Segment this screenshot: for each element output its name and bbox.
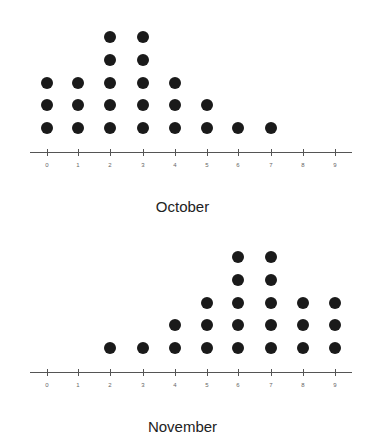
axis-tick — [110, 149, 111, 156]
axis-tick — [143, 149, 144, 156]
data-dot — [169, 122, 181, 134]
data-dot — [265, 342, 277, 354]
data-dot — [265, 319, 277, 331]
data-dot — [137, 99, 149, 111]
axis-tick — [47, 369, 48, 376]
tick-label: 8 — [297, 162, 309, 168]
axis-tick — [271, 149, 272, 156]
tick-label: 8 — [297, 382, 309, 388]
data-dot — [104, 99, 116, 111]
tick-label: 4 — [169, 162, 181, 168]
tick-label: 9 — [329, 382, 341, 388]
tick-label: 7 — [265, 162, 277, 168]
tick-label: 1 — [72, 162, 84, 168]
data-dot — [329, 342, 341, 354]
tick-label: 2 — [104, 382, 116, 388]
tick-label: 3 — [137, 382, 149, 388]
axis-tick — [207, 369, 208, 376]
tick-label: 4 — [169, 382, 181, 388]
data-dot — [297, 297, 309, 309]
axis-tick — [78, 149, 79, 156]
tick-label: 9 — [329, 162, 341, 168]
data-dot — [137, 54, 149, 66]
tick-label: 3 — [137, 162, 149, 168]
data-dot — [104, 31, 116, 43]
data-dot — [232, 297, 244, 309]
tick-label: 0 — [41, 382, 53, 388]
data-dot — [232, 342, 244, 354]
data-dot — [72, 77, 84, 89]
data-dot — [104, 342, 116, 354]
data-dot — [41, 77, 53, 89]
data-dot — [137, 122, 149, 134]
data-dot — [297, 319, 309, 331]
data-dot — [201, 99, 213, 111]
data-dot — [329, 319, 341, 331]
data-dot — [201, 319, 213, 331]
tick-label: 5 — [201, 382, 213, 388]
tick-label: 0 — [41, 162, 53, 168]
data-dot — [201, 122, 213, 134]
axis-tick — [238, 369, 239, 376]
axis-tick — [303, 369, 304, 376]
tick-label: 1 — [72, 382, 84, 388]
data-dot — [104, 122, 116, 134]
data-dot — [232, 319, 244, 331]
data-dot — [169, 77, 181, 89]
axis-tick — [175, 369, 176, 376]
axis-tick — [78, 369, 79, 376]
axis-tick — [238, 149, 239, 156]
axis-tick — [335, 369, 336, 376]
data-dot — [265, 251, 277, 263]
tick-label: 6 — [232, 382, 244, 388]
october-title: October — [0, 198, 365, 215]
data-dot — [201, 342, 213, 354]
data-dot — [265, 297, 277, 309]
axis-tick — [207, 149, 208, 156]
data-dot — [201, 297, 213, 309]
axis-tick — [47, 149, 48, 156]
data-dot — [137, 342, 149, 354]
data-dot — [41, 99, 53, 111]
data-dot — [137, 31, 149, 43]
data-dot — [232, 122, 244, 134]
axis-tick — [143, 369, 144, 376]
data-dot — [297, 342, 309, 354]
axis-tick — [335, 149, 336, 156]
data-dot — [169, 342, 181, 354]
axis-tick — [271, 369, 272, 376]
tick-label: 2 — [104, 162, 116, 168]
tick-label: 6 — [232, 162, 244, 168]
axis-tick — [303, 149, 304, 156]
data-dot — [329, 297, 341, 309]
axis-tick — [175, 149, 176, 156]
data-dot — [169, 319, 181, 331]
data-dot — [169, 99, 181, 111]
axis-tick — [110, 369, 111, 376]
data-dot — [265, 274, 277, 286]
data-dot — [41, 122, 53, 134]
data-dot — [104, 54, 116, 66]
data-dot — [265, 122, 277, 134]
tick-label: 7 — [265, 382, 277, 388]
data-dot — [104, 77, 116, 89]
tick-label: 5 — [201, 162, 213, 168]
november-title: November — [0, 418, 365, 435]
data-dot — [137, 77, 149, 89]
data-dot — [232, 274, 244, 286]
data-dot — [232, 251, 244, 263]
data-dot — [72, 99, 84, 111]
data-dot — [72, 122, 84, 134]
